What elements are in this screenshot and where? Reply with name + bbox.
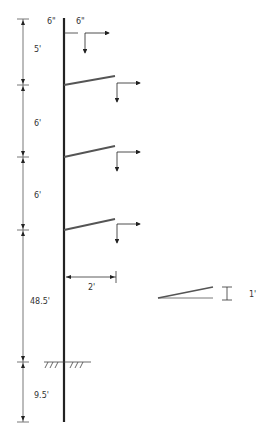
arm-rise-detail [158,287,232,300]
top-load-arrows [85,33,109,53]
arm-rise-label: 1' [249,290,256,299]
arm-3-load-arrows [117,224,140,243]
arm-2 [64,146,115,157]
arm-length-dimension [66,271,116,283]
arm-length-arrowhead-end [110,275,115,279]
pole-diagram: 5' 6' 6' 48.5' 9.5' 6" 6" 2' [0,0,267,445]
arm-length-arrowhead [66,275,71,279]
dim-label-9-5ft: 9.5' [34,391,49,400]
dim-label-6ft-a: 6' [34,119,41,128]
pole-top-label: 6" [47,17,56,26]
dim-label-48-5ft: 48.5' [30,297,50,306]
dim-label-5ft: 5' [34,45,41,54]
dim-label-6ft-b: 6' [34,191,41,200]
arm-2-load-arrows [117,152,140,171]
arm-3 [64,219,115,230]
arm-offset-label: 6" [76,17,85,26]
arm-1 [64,76,115,85]
arm-1-load-arrows [117,83,140,102]
ground-line [44,362,91,368]
arm-length-label: 2' [88,283,95,292]
